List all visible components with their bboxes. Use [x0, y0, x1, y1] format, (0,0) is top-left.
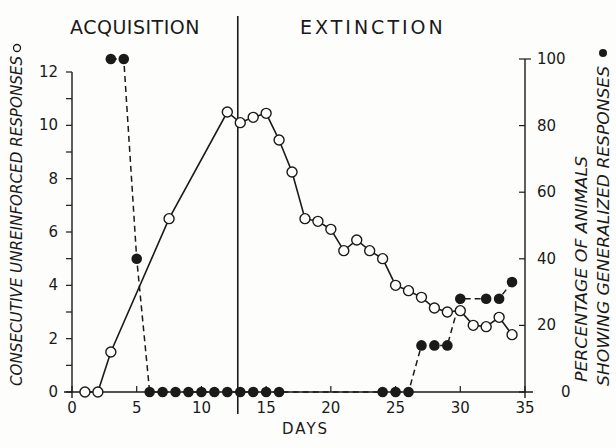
filled-circle-data-point: [235, 387, 246, 398]
left-y-tick-label: 10: [39, 116, 58, 134]
left-y-tick-label: 0: [48, 383, 58, 401]
left-axis-open-circle-marker-icon: [14, 45, 21, 52]
filled-circle-data-point: [248, 387, 259, 398]
open-circle-data-point: [287, 167, 297, 177]
left-y-tick-label: 2: [48, 330, 58, 348]
open-circle-data-point: [391, 280, 401, 290]
filled-circle-data-point: [170, 387, 181, 398]
open-circle-data-point: [365, 246, 375, 256]
right-y-tick-label: 60: [537, 183, 556, 201]
filled-circle-data-point: [481, 293, 492, 304]
filled-circle-data-point: [403, 387, 414, 398]
generalized-responses-line: [111, 59, 383, 392]
x-tick-label: 10: [192, 399, 211, 417]
open-circle-data-point: [378, 254, 388, 264]
filled-circle-data-point: [377, 387, 388, 398]
filled-circle-data-point: [183, 387, 194, 398]
open-circle-data-point: [442, 307, 452, 317]
filled-circle-data-point: [429, 340, 440, 351]
open-circle-data-point: [404, 286, 414, 296]
open-circle-data-point: [507, 330, 517, 340]
x-tick-label: 20: [321, 399, 340, 417]
left-y-tick-label: 12: [39, 63, 58, 81]
open-circle-data-point: [235, 118, 245, 128]
filled-circle-data-point: [209, 387, 220, 398]
open-circle-data-point: [429, 303, 439, 313]
x-axis-title: DAYS: [282, 420, 329, 438]
open-circle-data-point: [455, 306, 465, 316]
phase-label-extinction: EXTINCTION: [300, 16, 446, 38]
x-tick-label: 30: [451, 399, 470, 417]
filled-circle-data-point: [131, 253, 142, 264]
right-axis-title-line2: SHOWING GENERALIZED RESPONSES: [595, 65, 613, 386]
filled-circle-data-point: [416, 340, 427, 351]
left-axis-title: CONSECUTIVE UNREINFORCED RESPONSES: [8, 56, 26, 386]
filled-circle-data-point: [222, 387, 233, 398]
open-circle-data-point: [274, 135, 284, 145]
x-tick-label: 5: [132, 399, 142, 417]
axis-labels: ACQUISITION EXTINCTION DAYS CONSECUTIVE …: [8, 16, 613, 438]
phase-label-acquisition: ACQUISITION: [70, 16, 200, 38]
chart: 05101520253035024681012020406080100 ACQU…: [0, 0, 616, 448]
plot-area: [80, 54, 517, 398]
open-circle-data-point: [261, 108, 271, 118]
filled-circle-data-point: [261, 387, 272, 398]
filled-circle-data-point: [274, 387, 285, 398]
filled-circle-data-point: [455, 293, 466, 304]
right-y-tick-label: 20: [537, 316, 556, 334]
open-circle-data-point: [326, 224, 336, 234]
open-circle-data-point: [313, 216, 323, 226]
right-y-tick-label: 40: [537, 250, 556, 268]
x-tick-label: 15: [257, 399, 276, 417]
filled-circle-data-point: [196, 387, 207, 398]
right-axis-filled-circle-marker-icon: [599, 49, 607, 57]
open-circle-data-point: [106, 347, 116, 357]
open-circle-data-point: [416, 292, 426, 302]
open-circle-data-point: [248, 112, 258, 122]
open-circle-data-point: [468, 320, 478, 330]
open-circle-data-point: [481, 322, 491, 332]
x-tick-label: 25: [386, 399, 405, 417]
filled-circle-data-point: [494, 293, 505, 304]
left-y-tick-label: 8: [48, 170, 58, 188]
filled-circle-data-point: [157, 387, 168, 398]
open-circle-data-point: [494, 312, 504, 322]
open-circle-data-point: [222, 107, 232, 117]
x-tick-label: 35: [515, 399, 534, 417]
x-tick-label: 0: [67, 399, 77, 417]
filled-circle-data-point: [144, 387, 155, 398]
left-y-tick-label: 6: [48, 223, 58, 241]
left-y-tick-label: 4: [48, 276, 58, 294]
right-y-tick-label: 100: [537, 50, 566, 68]
filled-circle-data-point: [507, 277, 518, 288]
open-circle-data-point: [339, 246, 349, 256]
open-circle-data-point: [80, 387, 90, 397]
open-circle-data-point: [93, 387, 103, 397]
right-axis-title-line1: PERCENTAGE OF ANIMALS: [573, 155, 591, 382]
filled-circle-data-point: [106, 54, 117, 65]
open-circle-data-point: [352, 235, 362, 245]
filled-circle-data-point: [442, 340, 453, 351]
filled-circle-data-point: [390, 387, 401, 398]
filled-circle-data-point: [118, 54, 129, 65]
right-y-tick-label: 0: [561, 383, 571, 401]
open-circle-data-point: [300, 214, 310, 224]
right-y-tick-label: 80: [537, 117, 556, 135]
open-circle-data-point: [164, 214, 174, 224]
